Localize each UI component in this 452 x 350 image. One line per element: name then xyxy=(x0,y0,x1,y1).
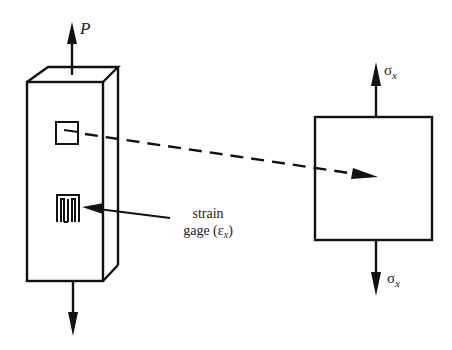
diagram-graphics xyxy=(0,0,452,350)
sigma-subscript: x xyxy=(392,69,397,81)
stress-arrow-top xyxy=(371,62,381,117)
caption-line-1: strain xyxy=(168,205,248,222)
bar-front-face xyxy=(27,82,103,281)
sigma-x-label-top: σx xyxy=(384,63,397,78)
sigma-x-label-bottom: σx xyxy=(387,271,400,286)
stress-element-square xyxy=(315,117,432,240)
strain-gage-caption: strain gage (εx) xyxy=(168,205,248,240)
caption-prefix: gage ( xyxy=(183,223,218,238)
element-marker-square xyxy=(56,122,78,144)
gage-callout-arrow xyxy=(82,203,170,218)
epsilon-symbol: ε xyxy=(218,223,224,238)
specimen-bar xyxy=(27,67,118,281)
epsilon-subscript: x xyxy=(224,229,228,240)
sigma-symbol: σ xyxy=(387,270,395,286)
sigma-subscript: x xyxy=(395,277,400,289)
diagram-canvas: P σx σx strain gage (εx) xyxy=(0,0,452,350)
caption-line-2: gage (εx) xyxy=(168,222,248,240)
load-arrow-bottom xyxy=(68,281,78,336)
stress-arrow-bottom xyxy=(371,240,381,296)
strain-gage-grid-icon xyxy=(57,195,79,222)
caption-suffix: ) xyxy=(228,223,233,238)
element-marker-tick xyxy=(64,130,78,132)
bar-bottom-edge xyxy=(103,265,118,281)
dashed-mapping-arrow xyxy=(85,134,378,179)
load-label-p: P xyxy=(80,20,90,37)
sigma-symbol: σ xyxy=(384,62,392,78)
